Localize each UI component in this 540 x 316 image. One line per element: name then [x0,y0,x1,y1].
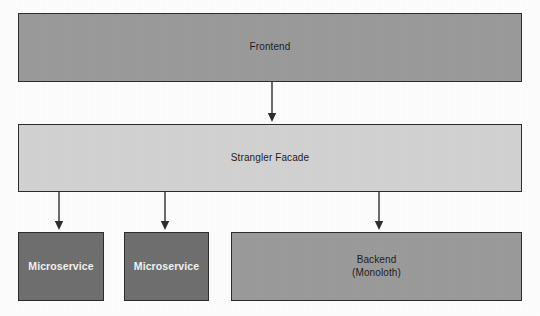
node-backend-monolith[interactable]: Backend (Monoloth) [231,232,522,301]
node-backend-monolith-label: Backend (Monoloth) [352,254,401,278]
node-frontend[interactable]: Frontend [18,13,522,82]
arrow-frontend-to-facade [266,82,278,122]
node-microservice-2[interactable]: Microservice [124,232,209,301]
arrow-facade-to-backend [373,192,385,230]
arrow-facade-to-microservice-1 [53,192,65,230]
arrow-facade-to-microservice-2 [159,192,171,230]
node-frontend-label: Frontend [250,41,291,53]
node-strangler-facade[interactable]: Strangler Facade [18,124,522,192]
node-microservice-2-label: Microservice [134,260,199,273]
node-microservice-1-label: Microservice [28,260,93,273]
architecture-diagram: Frontend Strangler Facade Microservice M… [0,0,540,316]
node-strangler-facade-label: Strangler Facade [231,152,309,164]
node-microservice-1[interactable]: Microservice [18,232,104,301]
